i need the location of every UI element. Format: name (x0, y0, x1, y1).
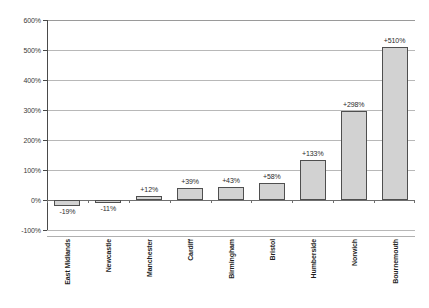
x-tick-mark (47, 200, 48, 203)
y-tick-label: 100% (23, 167, 41, 174)
x-axis-label-slot: Humberside (292, 239, 333, 308)
y-tick-mark-0 (43, 200, 47, 201)
bar-group: +39% (170, 20, 211, 230)
x-axis-category-label: Newcastle (105, 239, 112, 272)
bar-value-label: +298% (343, 101, 365, 108)
category-axis-separator (47, 236, 415, 237)
bar-group: +133% (292, 20, 333, 230)
y-tick-label: -100% (21, 227, 41, 234)
x-axis-category-label: Humberside (309, 239, 316, 278)
bars-layer: -19%-11%+12%+39%+43%+58%+133%+298%+510% (47, 20, 415, 230)
gridline--100 (47, 230, 415, 231)
bar (300, 160, 326, 200)
x-axis-category-label: Bournemouth (391, 239, 398, 284)
bar (259, 183, 285, 200)
y-tick-label: 200% (23, 137, 41, 144)
x-tick-mark (251, 200, 252, 203)
x-axis-category-label: East Midlands (64, 239, 71, 285)
x-axis-category-label: Bristol (268, 239, 275, 260)
bar-group: +12% (129, 20, 170, 230)
bar-group: +43% (211, 20, 252, 230)
bar-chart: -100%0%100%200%300%400%500%600% -19%-11%… (0, 0, 429, 308)
bar (95, 200, 121, 203)
x-tick-mark (333, 200, 334, 203)
x-tick-mark (374, 200, 375, 203)
x-axis-label-slot: Norwich (333, 239, 374, 308)
x-tick-mark (292, 200, 293, 203)
bar-value-label: +133% (302, 150, 324, 157)
y-tick-label: 600% (23, 17, 41, 24)
y-tick-mark-100 (43, 170, 47, 171)
x-axis-category-label: Norwich (350, 239, 357, 266)
x-tick-mark (414, 200, 415, 203)
bar-value-label: +43% (222, 177, 240, 184)
y-tick-mark--100 (43, 230, 47, 231)
bar-value-label: +12% (140, 186, 158, 193)
bar-group: +298% (333, 20, 374, 230)
y-tick-mark-300 (43, 110, 47, 111)
x-tick-mark (211, 200, 212, 203)
bar (136, 196, 162, 200)
y-tick-mark-400 (43, 80, 47, 81)
bar-value-label: -19% (59, 208, 75, 215)
x-tick-mark (88, 200, 89, 203)
x-axis-label-slot: East Midlands (47, 239, 88, 308)
x-tick-mark (129, 200, 130, 203)
x-axis-label-slot: Newcastle (88, 239, 129, 308)
x-axis-label-slot: Birmingham (211, 239, 252, 308)
bar (382, 47, 408, 200)
bar (54, 200, 80, 206)
y-tick-label: 500% (23, 47, 41, 54)
y-tick-mark-200 (43, 140, 47, 141)
bar-group: -19% (47, 20, 88, 230)
x-axis-label-slot: Bournemouth (374, 239, 415, 308)
bar-value-label: +39% (181, 178, 199, 185)
bar-value-label: +58% (263, 173, 281, 180)
x-axis-category-label: Manchester (146, 239, 153, 277)
x-axis-labels: East MidlandsNewcastleManchesterCardiffB… (47, 239, 415, 308)
bar-group: +58% (251, 20, 292, 230)
x-axis-category-label: Cardiff (187, 239, 194, 261)
bar (218, 187, 244, 200)
y-tick-mark-600 (43, 20, 47, 21)
x-tick-mark (170, 200, 171, 203)
y-tick-mark-500 (43, 50, 47, 51)
bar-group: -11% (88, 20, 129, 230)
x-axis-label-slot: Manchester (129, 239, 170, 308)
bar-group: +510% (374, 20, 415, 230)
x-axis-label-slot: Cardiff (170, 239, 211, 308)
bar-value-label: +510% (384, 37, 406, 44)
y-tick-label: 300% (23, 107, 41, 114)
y-tick-label: 0% (31, 197, 41, 204)
bar (177, 188, 203, 200)
bar-value-label: -11% (101, 205, 116, 212)
x-axis-category-label: Birmingham (227, 239, 234, 279)
y-tick-label: 400% (23, 77, 41, 84)
y-axis-labels: -100%0%100%200%300%400%500%600% (0, 0, 41, 308)
x-axis-label-slot: Bristol (251, 239, 292, 308)
bar (341, 111, 367, 200)
